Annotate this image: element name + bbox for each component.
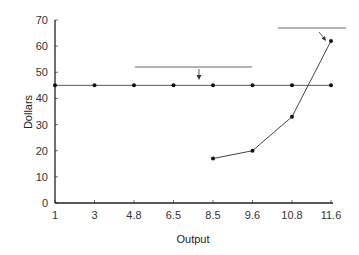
x-tick-label: 9.6	[245, 209, 260, 221]
data-point	[211, 157, 215, 161]
y-tick-label: 60	[36, 40, 48, 52]
x-axis-title: Output	[176, 233, 209, 245]
chart: 010203040506070 134.86.58.59.610.811.6 O…	[0, 0, 359, 255]
data-point	[251, 83, 255, 87]
y-tick-label: 10	[36, 171, 48, 183]
y-axis-title: Dollars	[22, 94, 34, 129]
series-line-rising-curve	[213, 41, 331, 159]
data-point	[251, 149, 255, 153]
arrow-head-icon	[197, 75, 202, 80]
y-tick-label: 40	[36, 92, 48, 104]
y-tick-label: 50	[36, 66, 48, 78]
x-tick-label: 8.5	[205, 209, 220, 221]
data-point	[132, 83, 136, 87]
x-tick-label: 1	[52, 209, 58, 221]
x-tick-label: 10.8	[281, 209, 302, 221]
data-point	[329, 83, 333, 87]
y-tick-label: 0	[42, 197, 48, 209]
data-point	[329, 39, 333, 43]
y-tick-label: 20	[36, 145, 48, 157]
y-tick-label: 30	[36, 119, 48, 131]
data-point	[290, 115, 294, 119]
data-point	[93, 83, 97, 87]
arrow-icon	[319, 32, 324, 38]
x-tick-label: 3	[91, 209, 97, 221]
x-tick-label: 4.8	[126, 209, 141, 221]
arrow-head-icon	[322, 36, 327, 41]
data-point	[211, 83, 215, 87]
y-tick-label: 70	[36, 14, 48, 26]
x-tick-label: 6.5	[166, 209, 181, 221]
data-point	[53, 83, 57, 87]
x-tick-label: 11.6	[321, 209, 342, 221]
series-group	[53, 39, 333, 161]
data-point	[290, 83, 294, 87]
data-point	[172, 83, 176, 87]
